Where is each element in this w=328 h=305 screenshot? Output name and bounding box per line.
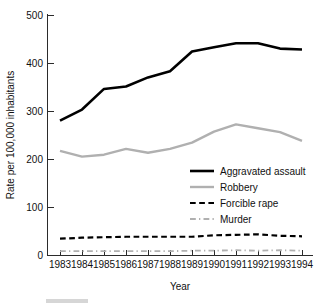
chart-canvas: 500 400 300 200 100 0 Rate per 100,000 i… xyxy=(0,0,328,305)
axis-frame xyxy=(48,14,313,256)
x-tick-label: 1984 xyxy=(71,259,94,270)
legend-label: Aggravated assault xyxy=(220,166,306,177)
legend-label: Forcible rape xyxy=(220,198,279,209)
legend-entry-robbery: Robbery xyxy=(190,182,258,193)
x-tick-label: 1985 xyxy=(93,259,116,270)
x-tick-label: 1993 xyxy=(269,259,292,270)
crime-rate-line-chart-figure: 500 400 300 200 100 0 Rate per 100,000 i… xyxy=(0,0,328,305)
legend-label: Murder xyxy=(220,214,252,225)
y-tick-label: 0 xyxy=(37,250,43,261)
chart-legend: Aggravated assault Robbery Forcible rape… xyxy=(190,166,306,225)
x-tick-label: 1991 xyxy=(225,259,248,270)
y-tick-label: 500 xyxy=(26,10,43,21)
x-tick-label: 1990 xyxy=(203,259,226,270)
x-tick-label: 1989 xyxy=(181,259,204,270)
y-tick-label: 100 xyxy=(26,202,43,213)
x-tick-label: 1994 xyxy=(291,259,314,270)
x-tick-label: 1986 xyxy=(115,259,138,270)
x-axis-title: Year xyxy=(170,281,191,292)
y-axis-title: Rate per 100,000 inhabitants xyxy=(5,71,16,199)
y-tick-label: 200 xyxy=(26,154,43,165)
y-tick-label: 300 xyxy=(26,106,43,117)
series-line-robbery xyxy=(60,124,302,156)
series-line-murder xyxy=(60,250,302,251)
x-tick-label: 1988 xyxy=(159,259,182,270)
x-axis-tick-labels: 1983 1984 1985 1986 1987 1988 1989 1990 … xyxy=(49,259,314,270)
y-axis-tick-labels: 500 400 300 200 100 0 xyxy=(26,10,43,261)
y-axis-ticks xyxy=(48,16,54,256)
series-line-forcible-rape xyxy=(60,234,302,238)
legend-entry-forcible-rape: Forcible rape xyxy=(190,198,279,209)
x-tick-label: 1992 xyxy=(247,259,270,270)
series-line-aggravated-assault xyxy=(60,43,302,120)
x-tick-label: 1983 xyxy=(49,259,72,270)
data-series-layer xyxy=(60,43,302,251)
legend-label: Robbery xyxy=(220,182,258,193)
y-tick-label: 400 xyxy=(26,58,43,69)
legend-entry-murder: Murder xyxy=(190,214,252,225)
x-tick-label: 1987 xyxy=(137,259,160,270)
bottom-scan-artifact xyxy=(46,299,88,303)
legend-entry-aggravated-assault: Aggravated assault xyxy=(190,166,306,177)
